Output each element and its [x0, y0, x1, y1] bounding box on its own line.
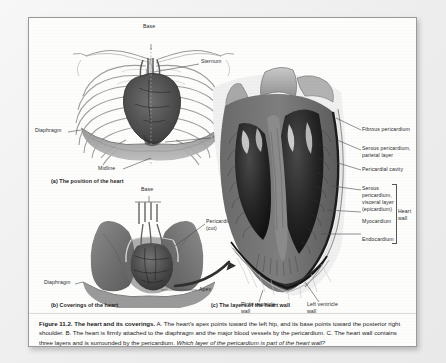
panel-c-layers-of-heart-wall: Fibrous pericardium Serous pericardium, …	[201, 58, 416, 308]
label-serous-pericardium-visceral-line3: visceral layer	[362, 199, 394, 206]
label-midline: Midline	[98, 165, 115, 172]
heart-wall-cross-section-illustration	[201, 58, 416, 308]
caption-divider	[29, 313, 416, 314]
label-serous-pericardium-visceral-line1: Serous	[362, 185, 379, 192]
label-pericardial-cavity: Pericardial cavity	[362, 166, 403, 173]
label-serous-pericardium-parietal-line2: parietal layer	[362, 152, 393, 159]
panel-c-caption: (c) The layers of the heart wall	[211, 302, 290, 308]
textbook-figure-page: Base Sternum Diaphragm Apex Midline (a) …	[28, 17, 417, 347]
panel-a-caption: (a) The position of the heart	[51, 178, 124, 184]
label-base-a: Base	[143, 23, 155, 30]
label-heart-wall-line2: wall	[398, 215, 407, 222]
label-serous-pericardium-parietal-line1: Serous pericardium,	[362, 145, 410, 152]
label-left-ventricle-wall-line1: Left ventricle	[307, 301, 338, 308]
figure-question: Which layer of the pericardium is part o…	[177, 339, 326, 346]
panel-b-caption: (b) Coverings of the heart	[51, 302, 118, 308]
figure-number: Figure 11.2.	[39, 320, 73, 327]
figure-title: The heart and its coverings.	[74, 320, 155, 327]
label-base-b: Base	[141, 186, 153, 193]
label-heart-wall-line1: Heart	[398, 208, 411, 215]
label-serous-pericardium-visceral-line2: pericardium,	[362, 192, 392, 199]
heart-wall-bracket	[392, 184, 397, 244]
label-endocardium: Endocardium	[362, 236, 394, 243]
label-diaphragm-b: Diaphragm	[44, 279, 70, 286]
label-diaphragm-a: Diaphragm	[35, 127, 61, 134]
figure-body-b: B. The heart is firmly attached to the d…	[65, 329, 324, 336]
label-serous-pericardium-visceral-line4: (epicardium)	[362, 206, 392, 213]
figure-caption: Figure 11.2. The heart and its coverings…	[39, 319, 407, 347]
label-fibrous-pericardium: Fibrous pericardium	[362, 126, 410, 133]
label-myocardium: Myocardium	[362, 218, 391, 225]
